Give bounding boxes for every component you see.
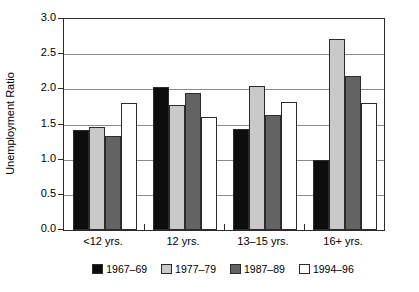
x-axis-category-label: <12 yrs. — [63, 235, 143, 247]
y-axis-tick-label: 1.5 — [6, 118, 56, 129]
x-axis-tick — [224, 224, 225, 230]
bar — [89, 127, 105, 230]
plot-area — [63, 18, 385, 231]
bar — [313, 160, 329, 230]
y-axis-tick-label: 3.0 — [6, 12, 56, 23]
chart-legend: 1967–691977–791987–891994–96 — [63, 261, 383, 277]
legend-swatch-icon — [92, 264, 103, 274]
x-axis-category-label: 16+ yrs. — [303, 235, 383, 247]
x-axis-category-label: 13–15 yrs. — [223, 235, 303, 247]
x-axis-tick — [304, 224, 305, 230]
y-axis-tick-label: 2.5 — [6, 47, 56, 58]
bar — [249, 86, 265, 230]
legend-item: 1977–79 — [161, 264, 216, 275]
bar — [201, 117, 217, 230]
y-axis-tick-label: 0.0 — [6, 223, 56, 234]
y-axis-tick-label: 0.5 — [6, 188, 56, 199]
legend-label: 1994–96 — [313, 264, 354, 275]
legend-swatch-icon — [161, 264, 172, 274]
legend-label: 1987–89 — [244, 264, 285, 275]
bar — [185, 93, 201, 230]
bar — [265, 115, 281, 230]
x-axis-category-label: 12 yrs. — [143, 235, 223, 247]
bar — [329, 39, 345, 230]
bar — [105, 136, 121, 230]
bar — [345, 76, 361, 230]
y-axis-tick-label: 1.0 — [6, 153, 56, 164]
plot-inner — [64, 19, 384, 230]
bar — [73, 130, 89, 230]
bar — [361, 103, 377, 230]
bar-chart-figure: Unemployment Ratio 0.00.51.01.52.02.53.0… — [0, 0, 419, 292]
legend-swatch-icon — [299, 264, 310, 274]
legend-label: 1967–69 — [106, 264, 147, 275]
bar — [153, 87, 169, 230]
bar — [121, 103, 137, 230]
legend-swatch-icon — [230, 264, 241, 274]
bar — [169, 105, 185, 230]
legend-item: 1994–96 — [299, 264, 354, 275]
bar — [233, 129, 249, 230]
legend-label: 1977–79 — [175, 264, 216, 275]
bar — [281, 102, 297, 230]
x-axis-tick — [144, 224, 145, 230]
legend-item: 1987–89 — [230, 264, 285, 275]
y-axis-tick-label: 2.0 — [6, 82, 56, 93]
legend-item: 1967–69 — [92, 264, 147, 275]
